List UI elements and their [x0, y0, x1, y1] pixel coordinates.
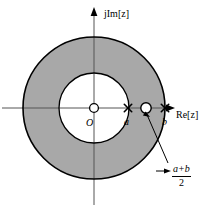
midpoint-fraction-denominator: 2 — [172, 177, 191, 189]
imaginary-axis-label: jIm[z] — [104, 9, 129, 19]
midpoint-fraction-label: a+b 2 — [172, 164, 191, 188]
origin-marker-icon — [90, 104, 99, 113]
origin-label: O — [86, 118, 93, 128]
midpoint-fraction-numerator: a+b — [172, 164, 191, 177]
real-axis-label: Re[z] — [176, 110, 198, 120]
pole-b-label: b — [162, 117, 167, 127]
midpoint-zero-marker-icon — [141, 103, 151, 113]
pole-a-label: a — [124, 117, 129, 127]
figure-canvas: jIm[z] Re[z] O a b a+b 2 — [0, 0, 208, 214]
midpoint-label-underline-arrow-icon — [156, 168, 171, 173]
